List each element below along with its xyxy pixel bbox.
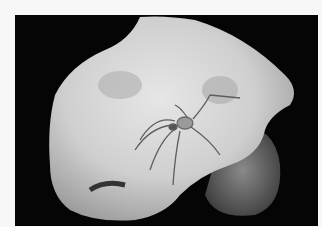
- spider-on-hand-image: [15, 15, 318, 226]
- photo-frame: [15, 15, 318, 226]
